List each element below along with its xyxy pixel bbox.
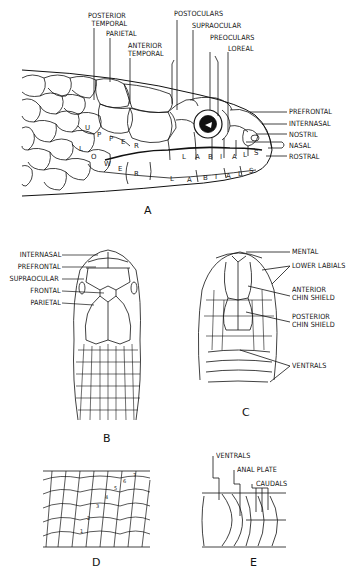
scale-row-number: 2	[87, 515, 90, 521]
panel-letter-d: D	[92, 556, 100, 569]
label-anterior-chin-shield: ANTERIOR CHIN SHIELD	[292, 286, 335, 302]
panel-letter-e: E	[250, 556, 257, 569]
label-ventrals: VENTRALS	[216, 452, 250, 460]
label-anal-plate: ANAL PLATE	[237, 466, 277, 474]
scale-row-number: 1	[80, 528, 83, 534]
scale-row-number: 5	[114, 485, 117, 491]
label-mental: MENTAL	[292, 248, 319, 256]
panel-letter-b: B	[103, 432, 111, 445]
label-ventrals: VENTRALS	[292, 362, 326, 370]
label-posterior-chin-shield: POSTERIOR CHIN SHIELD	[292, 313, 335, 329]
label-line-2: CHIN SHIELD	[292, 321, 335, 329]
panel-letter-c: C	[242, 406, 250, 419]
scale-row-number: 6	[123, 478, 126, 484]
label-caudals: CAUDALS	[256, 480, 287, 488]
scale-row-number: 7	[133, 472, 136, 478]
label-lower-labials: LOWER LABIALS	[292, 262, 345, 270]
label-line-2: CHIN SHIELD	[292, 294, 335, 302]
scale-row-number: 3	[96, 503, 99, 509]
scale-row-number: 4	[105, 494, 108, 500]
